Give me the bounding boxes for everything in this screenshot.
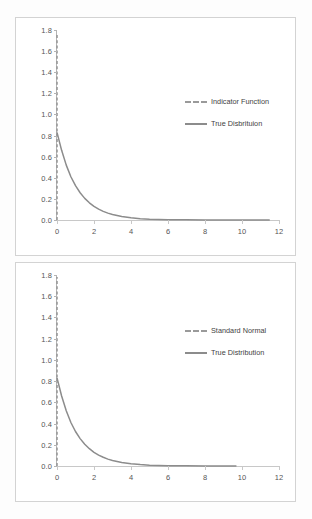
y-axis-tick-label: 1.0 bbox=[41, 355, 52, 364]
y-axis-tick-label: 1.2 bbox=[41, 89, 52, 98]
y-axis-tick-mark bbox=[54, 114, 57, 115]
x-axis-tick-mark bbox=[205, 220, 206, 224]
plot-wrapper-top: 0.00.20.40.60.81.01.21.41.61.8024681012 … bbox=[16, 18, 295, 255]
series-line bbox=[57, 132, 270, 220]
x-axis-tick-label: 8 bbox=[203, 473, 207, 482]
series-line bbox=[57, 378, 236, 466]
y-axis-tick-label: 1.2 bbox=[41, 334, 52, 343]
y-axis-tick-mark bbox=[54, 93, 57, 94]
legend-bottom: Standard Normal True Distribution bbox=[185, 326, 266, 370]
y-axis-tick-label: 0.0 bbox=[41, 462, 52, 471]
y-axis-tick-label: 0.8 bbox=[41, 377, 52, 386]
x-axis-tick-label: 8 bbox=[203, 227, 207, 236]
x-axis-tick-label: 12 bbox=[275, 473, 283, 482]
y-axis-tick-label: 0.6 bbox=[41, 152, 52, 161]
y-axis-tick-mark bbox=[54, 381, 57, 382]
legend-swatch-dashed-icon bbox=[185, 101, 207, 103]
legend-item[interactable]: True Disbrituion bbox=[185, 119, 269, 128]
legend-top: Indicator Function True Disbrituion bbox=[185, 97, 269, 141]
x-axis-tick-label: 2 bbox=[92, 473, 96, 482]
x-axis-tick-mark bbox=[131, 220, 132, 224]
plot-wrapper-bottom: 0.00.20.40.60.81.01.21.41.61.8024681012 … bbox=[16, 263, 295, 501]
y-axis-tick-mark bbox=[54, 199, 57, 200]
legend-label: True Disbrituion bbox=[211, 119, 262, 128]
legend-swatch-solid-icon bbox=[185, 123, 207, 125]
x-axis-tick-label: 10 bbox=[238, 227, 246, 236]
figure-container: 0.00.20.40.60.81.01.21.41.61.8024681012 … bbox=[0, 0, 312, 519]
y-axis-tick-label: 1.0 bbox=[41, 110, 52, 119]
x-axis-tick-label: 4 bbox=[129, 227, 133, 236]
x-axis-tick-mark bbox=[205, 466, 206, 470]
chart-panel-bottom: 0.00.20.40.60.81.01.21.41.61.8024681012 … bbox=[15, 262, 296, 502]
y-axis-tick-label: 0.4 bbox=[41, 173, 52, 182]
legend-item[interactable]: Indicator Function bbox=[185, 97, 269, 106]
legend-item[interactable]: True Distribution bbox=[185, 348, 266, 357]
x-axis-tick-label: 10 bbox=[238, 473, 246, 482]
y-axis-tick-label: 0.2 bbox=[41, 440, 52, 449]
x-axis-tick-mark bbox=[57, 220, 58, 224]
y-axis-tick-mark bbox=[54, 296, 57, 297]
legend-label: Standard Normal bbox=[211, 326, 266, 335]
y-axis-tick-label: 0.8 bbox=[41, 131, 52, 140]
series-lines-bottom bbox=[57, 275, 279, 466]
x-axis-tick-mark bbox=[279, 466, 280, 470]
y-axis-tick-label: 1.8 bbox=[41, 271, 52, 280]
legend-item[interactable]: Standard Normal bbox=[185, 326, 266, 335]
x-axis-tick-mark bbox=[57, 466, 58, 470]
plot-area-bottom: 0.00.20.40.60.81.01.21.41.61.8024681012 bbox=[56, 275, 279, 467]
x-axis-tick-mark bbox=[131, 466, 132, 470]
y-axis-tick-label: 1.4 bbox=[41, 68, 52, 77]
legend-swatch-dashed-icon bbox=[185, 330, 207, 332]
x-axis-tick-mark bbox=[168, 466, 169, 470]
y-axis-tick-mark bbox=[54, 402, 57, 403]
y-axis-tick-mark bbox=[54, 445, 57, 446]
y-axis-tick-label: 0.0 bbox=[41, 216, 52, 225]
x-axis-tick-label: 4 bbox=[129, 473, 133, 482]
y-axis-tick-mark bbox=[54, 136, 57, 137]
x-axis-tick-mark bbox=[168, 220, 169, 224]
y-axis-tick-mark bbox=[54, 317, 57, 318]
legend-label: True Distribution bbox=[211, 348, 264, 357]
y-axis-tick-mark bbox=[54, 30, 57, 31]
y-axis-tick-mark bbox=[54, 424, 57, 425]
y-axis-tick-label: 0.2 bbox=[41, 194, 52, 203]
y-axis-tick-mark bbox=[54, 360, 57, 361]
x-axis-tick-mark bbox=[242, 466, 243, 470]
y-axis-tick-mark bbox=[54, 72, 57, 73]
x-axis-tick-label: 6 bbox=[166, 473, 170, 482]
x-axis-tick-mark bbox=[94, 220, 95, 224]
y-axis-tick-label: 1.6 bbox=[41, 47, 52, 56]
x-axis-tick-mark bbox=[279, 220, 280, 224]
chart-panel-top: 0.00.20.40.60.81.01.21.41.61.8024681012 … bbox=[15, 17, 296, 256]
y-axis-tick-label: 0.4 bbox=[41, 419, 52, 428]
legend-label: Indicator Function bbox=[211, 97, 269, 106]
y-axis-tick-label: 0.6 bbox=[41, 398, 52, 407]
y-axis-tick-label: 1.8 bbox=[41, 26, 52, 35]
y-axis-tick-mark bbox=[54, 339, 57, 340]
x-axis-tick-label: 12 bbox=[275, 227, 283, 236]
y-axis-tick-label: 1.6 bbox=[41, 292, 52, 301]
y-axis-tick-label: 1.4 bbox=[41, 313, 52, 322]
y-axis-tick-mark bbox=[54, 178, 57, 179]
y-axis-tick-mark bbox=[54, 275, 57, 276]
x-axis-tick-label: 0 bbox=[55, 227, 59, 236]
x-axis-tick-label: 6 bbox=[166, 227, 170, 236]
x-axis-tick-mark bbox=[242, 220, 243, 224]
x-axis-tick-label: 0 bbox=[55, 473, 59, 482]
y-axis-tick-mark bbox=[54, 51, 57, 52]
x-axis-tick-label: 2 bbox=[92, 227, 96, 236]
y-axis-tick-mark bbox=[54, 157, 57, 158]
legend-swatch-solid-icon bbox=[185, 352, 207, 354]
x-axis-tick-mark bbox=[94, 466, 95, 470]
